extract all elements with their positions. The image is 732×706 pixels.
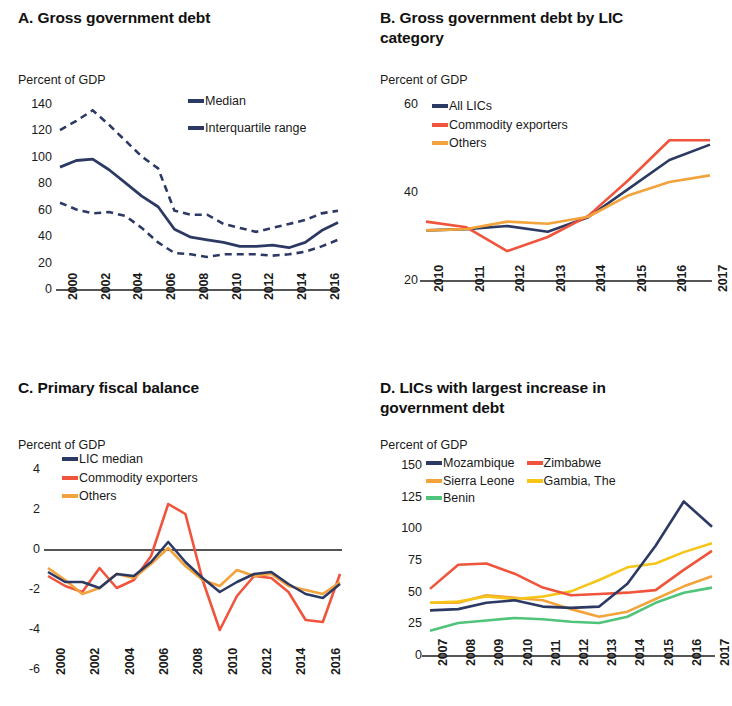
panel-b-svg <box>360 0 721 353</box>
x-tick-label: 2010 <box>432 265 446 292</box>
y-tick-label: 20 <box>12 256 52 270</box>
y-tick-label: 0 <box>0 542 40 556</box>
panel-b-line-others <box>426 175 710 230</box>
x-tick-label: 2002 <box>88 648 102 675</box>
y-tick-label: -2 <box>0 582 40 596</box>
x-tick-label: 2008 <box>197 273 211 300</box>
panel-a-line-iqr-upper <box>60 110 338 232</box>
x-tick-label: 2008 <box>464 639 478 666</box>
y-tick-label: 80 <box>12 176 52 190</box>
x-tick-label: 2014 <box>633 639 647 666</box>
y-tick-label: 20 <box>378 273 418 287</box>
x-tick-label: 2014 <box>294 648 308 675</box>
x-tick-label: 2015 <box>635 265 649 292</box>
y-tick-label: 120 <box>12 123 52 137</box>
x-tick-label: 2010 <box>521 639 535 666</box>
x-tick-label: 2012 <box>260 648 274 675</box>
x-tick-label: 2008 <box>191 648 205 675</box>
x-tick-label: 2004 <box>131 273 145 300</box>
panel-b-line-commodity-exporters <box>426 140 710 251</box>
x-tick-label: 2010 <box>226 648 240 675</box>
y-tick-label: 4 <box>0 462 40 476</box>
x-tick-label: 2011 <box>473 266 487 292</box>
x-tick-label: 2012 <box>262 273 276 300</box>
x-tick-label: 2000 <box>54 648 68 675</box>
panel-c-primary-fiscal-balance: C. Primary fiscal balance Percent of GDP… <box>0 353 360 706</box>
y-tick-label: 140 <box>12 97 52 111</box>
y-tick-label: 50 <box>382 585 422 599</box>
panel-d-lics-with-largest-increase: D. LICs with largest increase in governm… <box>360 353 721 706</box>
x-tick-label: 2000 <box>66 273 80 300</box>
x-tick-label: 2016 <box>675 265 689 292</box>
x-tick-label: 2013 <box>605 639 619 666</box>
x-tick-label: 2006 <box>157 648 171 675</box>
y-tick-label: 0 <box>382 648 422 662</box>
x-tick-label: 2016 <box>690 639 704 666</box>
panel-a-gross-government-debt: A. Gross government debt Percent of GDP … <box>0 0 360 353</box>
y-tick-label: 60 <box>12 203 52 217</box>
y-tick-label: 0 <box>12 282 52 296</box>
x-tick-label: 2006 <box>164 273 178 300</box>
panel-c-line-commodity-exporters <box>48 504 340 630</box>
panel-b-plot <box>360 0 721 353</box>
y-tick-label: 60 <box>378 97 418 111</box>
y-tick-label: 125 <box>382 490 422 504</box>
y-tick-label: -6 <box>0 662 40 676</box>
y-tick-label: 150 <box>382 458 422 472</box>
panel-b-line-all-lics <box>426 145 710 232</box>
y-tick-label: -4 <box>0 622 40 636</box>
y-tick-label: 75 <box>382 553 422 567</box>
x-tick-label: 2009 <box>492 639 506 666</box>
y-tick-label: 100 <box>12 150 52 164</box>
x-tick-label: 2016 <box>328 273 342 300</box>
x-tick-label: 2016 <box>329 648 343 675</box>
x-tick-label: 2015 <box>662 639 676 666</box>
panel-a-line-median <box>60 159 338 248</box>
x-tick-label: 2010 <box>230 273 244 300</box>
x-tick-label: 2017 <box>718 639 732 666</box>
x-tick-label: 2013 <box>554 265 568 292</box>
x-tick-label: 2014 <box>295 273 309 300</box>
x-tick-label: 2002 <box>99 273 113 300</box>
y-tick-label: 2 <box>0 502 40 516</box>
x-tick-label: 2017 <box>716 265 730 292</box>
panel-b-gross-government-debt-by-lic-category: B. Gross government debt by LIC category… <box>360 0 721 353</box>
panel-a-svg <box>0 0 360 353</box>
y-tick-label: 40 <box>378 185 418 199</box>
x-tick-label: 2014 <box>594 265 608 292</box>
y-tick-label: 40 <box>12 229 52 243</box>
y-tick-label: 25 <box>382 616 422 630</box>
x-tick-label: 2011 <box>549 640 563 666</box>
panel-a-line-iqr-lower <box>60 203 338 257</box>
panel-a-plot <box>0 0 360 353</box>
y-tick-label: 100 <box>382 521 422 535</box>
x-tick-label: 2004 <box>123 648 137 675</box>
x-tick-label: 2012 <box>513 265 527 292</box>
x-tick-label: 2007 <box>436 639 450 666</box>
x-tick-label: 2012 <box>577 639 591 666</box>
